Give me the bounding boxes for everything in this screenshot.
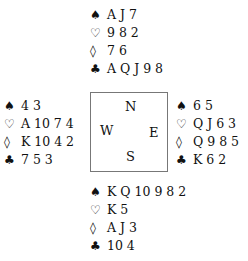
east-hand: ♠ 6 5 ♡ Q J 6 3 ◊ Q 9 8 5 ♣ K 6 2 — [176, 97, 239, 169]
diamond-icon: ◊ — [90, 220, 103, 237]
diamond-icon: ◊ — [176, 134, 189, 151]
east-clubs: ♣ K 6 2 — [176, 151, 239, 169]
spade-icon: ♠ — [90, 7, 103, 24]
heart-icon: ♡ — [90, 202, 103, 219]
club-icon: ♣ — [176, 152, 189, 169]
north-hearts: ♡ 9 8 2 — [90, 24, 163, 42]
west-spades: ♠ 4 3 — [4, 97, 74, 115]
north-clubs: ♣ A Q J 9 8 — [90, 60, 163, 78]
compass-west: W — [100, 123, 113, 138]
north-diamonds: ◊ 7 6 — [90, 42, 163, 60]
compass-south: S — [126, 149, 135, 164]
diamond-icon: ◊ — [4, 134, 17, 151]
north-spades: ♠ A J 7 — [90, 6, 163, 24]
heart-icon: ♡ — [4, 116, 17, 133]
club-icon: ♣ — [90, 238, 103, 255]
spade-icon: ♠ — [176, 98, 189, 115]
west-diamonds: ◊ K 10 4 2 — [4, 133, 74, 151]
south-diamonds: ◊ A J 3 — [90, 219, 186, 237]
spade-icon: ♠ — [90, 184, 103, 201]
north-hand: ♠ A J 7 ♡ 9 8 2 ◊ 7 6 ♣ A Q J 9 8 — [90, 6, 163, 78]
south-hand: ♠ K Q 10 9 8 2 ♡ K 5 ◊ A J 3 ♣ 10 4 — [90, 183, 186, 255]
west-hand: ♠ 4 3 ♡ A 10 7 4 ◊ K 10 4 2 ♣ 7 5 3 — [4, 97, 74, 169]
diamond-icon: ◊ — [90, 43, 103, 60]
south-spades: ♠ K Q 10 9 8 2 — [90, 183, 186, 201]
compass-north: N — [125, 99, 136, 114]
west-clubs: ♣ 7 5 3 — [4, 151, 74, 169]
west-hearts: ♡ A 10 7 4 — [4, 115, 74, 133]
east-diamonds: ◊ Q 9 8 5 — [176, 133, 239, 151]
south-hearts: ♡ K 5 — [90, 201, 186, 219]
east-hearts: ♡ Q J 6 3 — [176, 115, 239, 133]
heart-icon: ♡ — [176, 116, 189, 133]
club-icon: ♣ — [90, 61, 103, 78]
spade-icon: ♠ — [4, 98, 17, 115]
compass-box: N W E S — [90, 92, 168, 172]
south-clubs: ♣ 10 4 — [90, 237, 186, 255]
heart-icon: ♡ — [90, 25, 103, 42]
club-icon: ♣ — [4, 152, 17, 169]
compass-east: E — [149, 125, 159, 140]
east-spades: ♠ 6 5 — [176, 97, 239, 115]
